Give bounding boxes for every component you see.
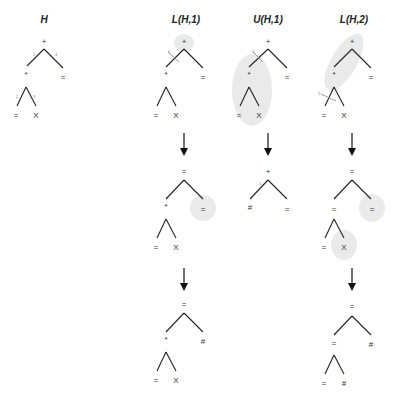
node-left-left: = (154, 243, 159, 252)
node-root: + (350, 37, 355, 46)
node-left-right: X (173, 376, 179, 385)
node-left-right: X (341, 111, 347, 120)
node-right: = (61, 73, 66, 82)
node-left-right: X (33, 111, 39, 120)
node-root: = (350, 167, 355, 176)
node-root: = (182, 167, 187, 176)
column-title-u-h-1: U(H,1) (253, 14, 283, 25)
node-left: # (248, 203, 253, 212)
tree-l-h-1-step-2: = * # = X (154, 300, 206, 385)
node-right: # (369, 340, 374, 349)
node-left: = (332, 339, 337, 348)
node-left-right: X (256, 111, 262, 120)
tree-u-h-1-initial: + 1 * = = X (232, 37, 290, 126)
node-root: = (182, 300, 187, 309)
node-left: * (24, 70, 27, 79)
tree-l-h-2-step-1: = = = = X (322, 167, 385, 260)
edge-label: 1 (259, 181, 262, 186)
node-left: * (247, 70, 250, 79)
edge-label: 4 (55, 52, 58, 57)
node-right: = (370, 205, 375, 214)
edge-label: 2 (318, 91, 321, 96)
node-left-left: = (154, 376, 159, 385)
node-right: # (201, 337, 206, 346)
edge-label: 1 (33, 52, 36, 57)
node-right: = (285, 73, 290, 82)
node-left-left: = (322, 379, 327, 388)
node-left: * (164, 335, 167, 344)
tree-l-h-2-step-2: = = # = # (322, 302, 374, 388)
node-left-left: = (322, 111, 327, 120)
tree-l-h-1-initial: + 1 * = = X (154, 34, 206, 120)
node-right: = (201, 73, 206, 82)
node-left-right: X (173, 243, 179, 252)
node-left-left: = (154, 111, 159, 120)
node-root: + (266, 167, 271, 176)
node-left-right: X (173, 111, 179, 120)
tree-h: + 1 4 * = 2 3 = X (14, 37, 66, 120)
node-left-right: X (341, 243, 347, 252)
edge-label: 1 (168, 49, 171, 54)
node-root: + (42, 37, 47, 46)
node-left-left: = (322, 243, 327, 252)
node-root: + (266, 37, 271, 46)
node-left-left: = (237, 111, 242, 120)
highlight-region (317, 28, 372, 96)
node-left-right: # (342, 379, 347, 388)
cut-mark (321, 94, 336, 101)
node-left: = (332, 205, 337, 214)
tree-transformation-diagram: H L(H,1) U(H,1) L(H,2) + 1 4 * = 2 3 = X… (0, 0, 399, 402)
node-left: * (332, 70, 335, 79)
node-left: * (164, 202, 167, 211)
node-right: = (285, 205, 290, 214)
node-root: = (350, 302, 355, 311)
node-right: = (201, 205, 206, 214)
node-right: = (369, 73, 374, 82)
column-title-l-h-2: L(H,2) (340, 14, 369, 25)
column-title-h: H (40, 14, 48, 25)
tree-l-h-1-step-1: = * = = X (154, 167, 216, 252)
tree-u-h-1-step-1: + 1 # = (248, 167, 290, 214)
tree-l-h-2-initial: + * = 2 = X (317, 28, 374, 120)
edge-label: 2 (16, 94, 19, 99)
column-title-l-h-1: L(H,1) (172, 14, 201, 25)
node-left-left: = (14, 111, 19, 120)
node-left: * (164, 70, 167, 79)
edge-label: 3 (33, 94, 36, 99)
node-root: + (182, 37, 187, 46)
